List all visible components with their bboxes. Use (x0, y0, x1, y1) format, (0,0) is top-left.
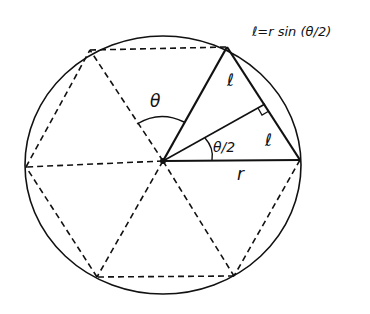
theta-arc (137, 116, 184, 124)
chord-label-upper: ℓ (226, 70, 234, 90)
hexagon-circle-diagram: θ θ/2 ℓ ℓ r ℓ=r sin (θ/2) (0, 0, 370, 314)
circle (25, 36, 301, 294)
radius-label: r (237, 164, 245, 184)
chord-edge (227, 47, 300, 160)
theta-label: θ (150, 91, 161, 111)
radius-r (163, 160, 300, 161)
half-theta-arc (205, 138, 212, 160)
hexagon-dashed-spokes (26, 50, 234, 277)
formula-text: ℓ=r sin (θ/2) (251, 24, 331, 39)
chord-label-lower: ℓ (264, 130, 272, 150)
half-theta-label: θ/2 (213, 139, 235, 155)
center-point (160, 158, 166, 164)
